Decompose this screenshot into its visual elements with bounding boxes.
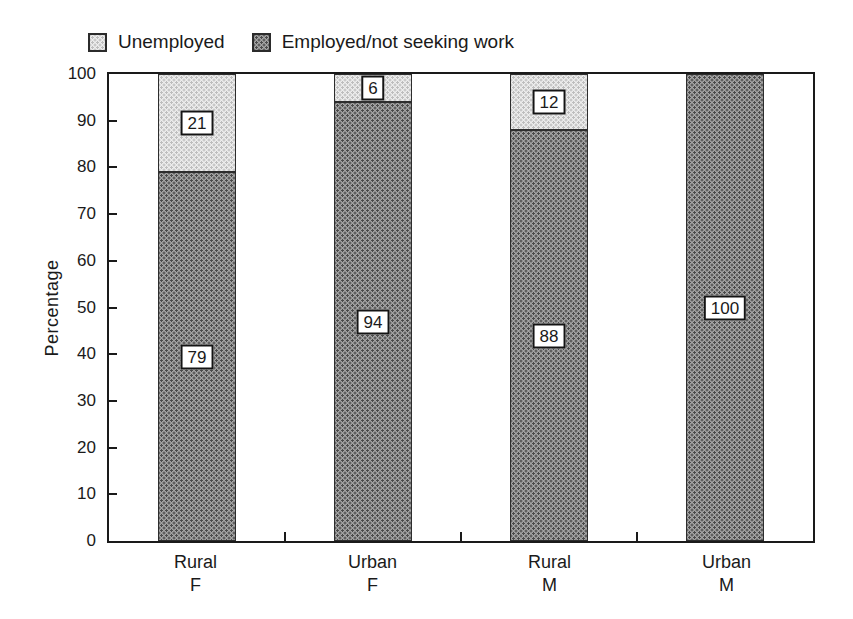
value-label-employed-urban-f: 94 [357, 309, 390, 334]
x-boundary-tick [284, 532, 286, 541]
y-tick-label-60: 60 [0, 250, 96, 272]
x-category-line: Urban [657, 551, 797, 574]
y-tick-30 [109, 400, 117, 402]
legend-label-employed: Employed/not seeking work [282, 31, 514, 53]
y-tick-label-80: 80 [0, 156, 96, 178]
x-category-label-rural-f: RuralF [126, 551, 266, 597]
value-label-employed-rural-f: 79 [181, 344, 214, 369]
figure: Unemployed Employed/not seeking work Per… [0, 0, 853, 619]
y-tick-40 [109, 353, 117, 355]
y-tick-label-100: 100 [0, 63, 96, 85]
x-boundary-tick [460, 532, 462, 541]
y-tick-80 [109, 166, 117, 168]
y-tick-70 [109, 213, 117, 215]
x-category-line: Urban [303, 551, 443, 574]
bar-urban-m: 100 [686, 74, 764, 541]
y-tick-label-90: 90 [0, 110, 96, 132]
y-tick-10 [109, 493, 117, 495]
x-category-line: M [480, 574, 620, 597]
x-category-label-urban-f: UrbanF [303, 551, 443, 597]
y-tick-90 [109, 120, 117, 122]
value-label-unemployed-rural-m: 12 [533, 90, 566, 115]
x-category-line: M [657, 574, 797, 597]
x-category-line: Rural [126, 551, 266, 574]
y-tick-label-50: 50 [0, 297, 96, 319]
y-tick-label-10: 10 [0, 483, 96, 505]
bar-rural-m: 8812 [510, 74, 588, 541]
x-category-line: F [126, 574, 266, 597]
legend-swatch-unemployed-icon [88, 33, 107, 52]
value-label-unemployed-rural-f: 21 [181, 111, 214, 136]
y-tick-50 [109, 307, 117, 309]
x-category-line: Rural [480, 551, 620, 574]
value-label-employed-urban-m: 100 [704, 295, 746, 320]
y-tick-label-20: 20 [0, 437, 96, 459]
value-label-unemployed-urban-f: 6 [361, 76, 384, 101]
y-tick-label-40: 40 [0, 343, 96, 365]
y-tick-label-70: 70 [0, 203, 96, 225]
plot-area: 79219468812100 [107, 72, 815, 543]
x-axis-labels: RuralFUrbanFRuralMUrbanM [107, 551, 815, 603]
x-boundary-tick [636, 532, 638, 541]
bar-rural-f: 7921 [158, 74, 236, 541]
y-tick-label-30: 30 [0, 390, 96, 412]
value-label-employed-rural-m: 88 [533, 323, 566, 348]
y-tick-60 [109, 260, 117, 262]
x-category-label-urban-m: UrbanM [657, 551, 797, 597]
x-category-label-rural-m: RuralM [480, 551, 620, 597]
y-tick-20 [109, 447, 117, 449]
x-category-line: F [303, 574, 443, 597]
bar-urban-f: 946 [334, 74, 412, 541]
y-tick-label-0: 0 [0, 530, 96, 552]
legend-label-unemployed: Unemployed [118, 31, 225, 53]
legend: Unemployed Employed/not seeking work [88, 31, 541, 53]
legend-swatch-employed-icon [252, 33, 271, 52]
